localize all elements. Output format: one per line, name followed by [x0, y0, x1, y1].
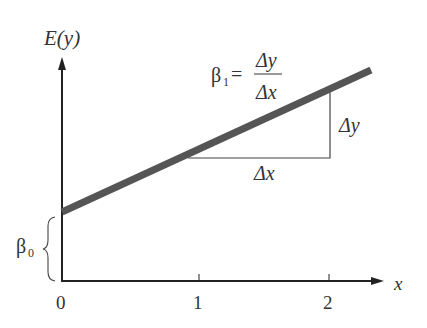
y-axis-arrow-icon — [58, 57, 66, 70]
intercept-beta: β — [16, 235, 26, 258]
intercept-beta-subscript: 0 — [28, 246, 34, 260]
delta-x-label: Δx — [253, 162, 275, 184]
regression-line-diagram: E(y) x 0 1 2 β 1 = Δy Δx Δy Δx β 0 — [0, 0, 427, 328]
x-tick-label-0: 0 — [56, 292, 66, 313]
x-tick-label-1: 1 — [193, 292, 203, 313]
x-axis-arrow-icon — [371, 277, 384, 285]
y-axis-label: E(y) — [43, 26, 80, 50]
slope-beta: β — [211, 64, 221, 87]
slope-numerator: Δy — [255, 49, 277, 72]
x-tick-label-2: 2 — [323, 292, 333, 313]
intercept-brace — [43, 217, 55, 281]
slope-beta-subscript: 1 — [223, 75, 229, 89]
slope-equals: = — [231, 63, 242, 85]
x-axis-label: x — [393, 273, 403, 294]
slope-denominator: Δx — [255, 81, 277, 103]
regression-line — [62, 70, 371, 212]
delta-y-label: Δy — [338, 114, 360, 137]
